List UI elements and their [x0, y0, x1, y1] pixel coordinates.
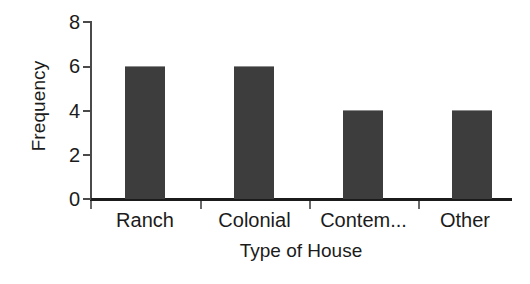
y-tick-mark-4 — [83, 110, 91, 112]
bar-contemporary — [343, 110, 383, 199]
x-axis-title: Type of House — [90, 240, 512, 262]
y-axis-tick-labels: 8 6 4 2 0 — [54, 0, 80, 284]
y-tick-label-6: 6 — [58, 56, 80, 76]
y-tick-label-0: 0 — [58, 189, 80, 209]
bar-ranch — [125, 66, 165, 199]
bar-chart: Frequency 8 6 4 2 0 Ranch Colonial Conte… — [0, 0, 530, 284]
y-tick-mark-2 — [83, 154, 91, 156]
y-tick-label-8: 8 — [58, 12, 80, 32]
x-tick-label-ranch: Ranch — [90, 208, 200, 232]
y-axis-title: Frequency — [26, 6, 52, 206]
y-tick-label-2: 2 — [58, 145, 80, 165]
x-tick-label-contemporary: Contem... — [309, 208, 418, 232]
y-tick-mark-6 — [83, 66, 91, 68]
y-tick-label-4: 4 — [58, 101, 80, 121]
x-tick-label-colonial: Colonial — [200, 208, 309, 232]
y-tick-mark-0 — [83, 198, 91, 200]
y-tick-mark-8 — [83, 21, 91, 23]
x-tick-label-other: Other — [418, 208, 512, 232]
bar-other — [452, 110, 492, 199]
bar-colonial — [234, 66, 274, 199]
